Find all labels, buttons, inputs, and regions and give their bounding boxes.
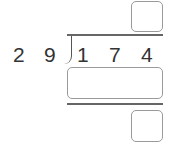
subtraction-line [67,103,163,105]
product-box[interactable] [67,67,163,99]
dividend-digit-tens: 7 [109,44,121,65]
dividend-digit-ones: 4 [141,44,153,65]
divisor-digit-tens: 2 [13,44,25,65]
dividend-digit-hundreds: 1 [77,44,89,65]
divisor-digit-ones: 9 [44,44,56,65]
remainder-box[interactable] [131,110,163,142]
division-overline [67,34,163,36]
division-bracket [64,36,72,64]
quotient-box[interactable] [131,1,163,32]
